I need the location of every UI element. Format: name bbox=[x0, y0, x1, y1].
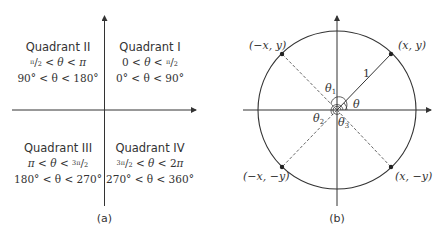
quadrant-iii-title: Quadrant III bbox=[24, 141, 92, 155]
dashed-line-q4 bbox=[337, 110, 391, 167]
quadrant-iii: Quadrant III π < θ < 3π/2 180° < θ < 270… bbox=[14, 141, 102, 185]
quadrant-i-title: Quadrant I bbox=[119, 40, 180, 54]
point-q3 bbox=[280, 165, 284, 169]
quadrant-ii-radians: π/2 < θ < π bbox=[30, 56, 87, 68]
theta2-label: θ2 bbox=[313, 112, 324, 126]
angle-arcs bbox=[331, 97, 347, 115]
quadrant-iii-radians: π < θ < 3π/2 bbox=[27, 157, 88, 169]
radius-line bbox=[337, 54, 391, 110]
quadrant-iv-degrees: 270° < θ < 360° bbox=[106, 173, 194, 185]
quadrant-iv-radians: 3π/2 < θ < 2π bbox=[117, 157, 185, 169]
quadrant-iv: Quadrant IV 3π/2 < θ < 2π 270° < θ < 360… bbox=[106, 141, 194, 185]
theta-label: θ bbox=[353, 98, 360, 111]
quadrant-i-radians: 0 < θ < π/2 bbox=[122, 56, 178, 68]
panel-a-caption: (a) bbox=[97, 212, 112, 225]
label-x-y: (x, y) bbox=[398, 39, 426, 52]
label-negx-y: (−x, y) bbox=[249, 39, 286, 52]
label-x-negy: (x, −y) bbox=[395, 170, 432, 183]
quadrant-ii-title: Quadrant II bbox=[26, 40, 91, 54]
point-q2 bbox=[280, 52, 284, 56]
diagram-root: Quadrant II π/2 < θ < π 90° < θ < 180° Q… bbox=[0, 0, 442, 233]
theta3-label: θ3 bbox=[338, 116, 349, 130]
point-q4 bbox=[389, 165, 393, 169]
diagram-svg: Quadrant II π/2 < θ < π 90° < θ < 180° Q… bbox=[0, 0, 442, 233]
quadrant-iii-degrees: 180° < θ < 270° bbox=[14, 173, 102, 185]
label-negx-negy: (−x, −y) bbox=[243, 170, 289, 183]
point-q1 bbox=[389, 52, 393, 56]
quadrant-ii: Quadrant II π/2 < θ < π 90° < θ < 180° bbox=[17, 40, 98, 84]
dashed-line-q3 bbox=[282, 110, 337, 167]
quadrant-i-degrees: 0° < θ < 90° bbox=[116, 72, 184, 84]
quadrant-ii-degrees: 90° < θ < 180° bbox=[17, 72, 98, 84]
quadrant-i: Quadrant I 0 < θ < π/2 0° < θ < 90° bbox=[116, 40, 184, 84]
theta1-label: θ1 bbox=[325, 82, 336, 96]
quadrant-iv-title: Quadrant IV bbox=[115, 141, 184, 155]
panel-b-caption: (b) bbox=[329, 212, 345, 225]
radius-label: 1 bbox=[363, 67, 370, 80]
